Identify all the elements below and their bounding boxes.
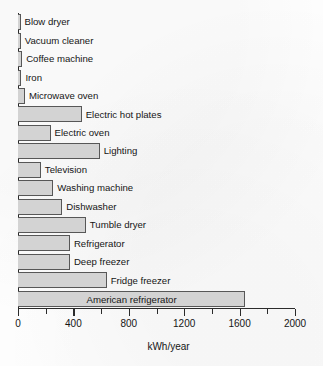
x-axis-major-tick bbox=[184, 309, 185, 316]
bar bbox=[18, 106, 82, 122]
x-axis-tick-label: 1200 bbox=[173, 319, 195, 329]
plot-area: Blow dryerVacuum cleanerCoffee machineIr… bbox=[18, 13, 295, 308]
x-axis-tick-label: 1600 bbox=[228, 319, 250, 329]
x-axis-major-tick bbox=[18, 309, 19, 316]
bar-label: American refrigerator bbox=[18, 295, 245, 305]
bar-row: Refrigerator bbox=[18, 234, 295, 252]
bar-row: Iron bbox=[18, 68, 295, 86]
bar-label: Dishwasher bbox=[62, 202, 116, 212]
bar-label: Deep freezer bbox=[70, 257, 129, 267]
x-axis-minor-tick bbox=[212, 309, 213, 314]
bar bbox=[18, 235, 70, 251]
bar-label: Television bbox=[41, 165, 87, 175]
bar-row: Dishwasher bbox=[18, 197, 295, 215]
bar bbox=[18, 272, 107, 288]
bar bbox=[18, 162, 41, 178]
x-axis-tick-label: 400 bbox=[65, 319, 82, 329]
bar-row: Fridge freezer bbox=[18, 271, 295, 289]
bar-label: Refrigerator bbox=[70, 239, 125, 249]
bar-label: Electric oven bbox=[51, 128, 110, 138]
x-axis-tick-label: 0 bbox=[15, 319, 21, 329]
bar-label: Electric hot plates bbox=[82, 110, 162, 120]
bar-row: Electric oven bbox=[18, 124, 295, 142]
x-axis-major-tick bbox=[73, 309, 74, 316]
bar-label: Blow dryer bbox=[21, 17, 70, 27]
x-axis-minor-tick bbox=[157, 309, 158, 314]
x-axis-minor-tick bbox=[46, 309, 47, 314]
bar-row: Coffee machine bbox=[18, 50, 295, 68]
bar-row: Deep freezer bbox=[18, 253, 295, 271]
x-axis-major-tick bbox=[240, 309, 241, 316]
bar-row: Washing machine bbox=[18, 179, 295, 197]
x-axis-title-text: kWh/year bbox=[133, 341, 189, 352]
bar-label: Washing machine bbox=[53, 183, 133, 193]
bar-row: Lighting bbox=[18, 142, 295, 160]
bar-label: Lighting bbox=[100, 146, 138, 156]
bar bbox=[18, 143, 100, 159]
bar bbox=[18, 88, 25, 104]
bar-label: Tumble dryer bbox=[86, 220, 146, 230]
bar bbox=[18, 254, 70, 270]
bar-label: Iron bbox=[21, 73, 42, 83]
bar bbox=[18, 125, 51, 141]
bar-label: Vacuum cleaner bbox=[21, 36, 94, 46]
bar-label: Fridge freezer bbox=[107, 276, 171, 286]
bar-row: Vacuum cleaner bbox=[18, 31, 295, 49]
bar bbox=[18, 199, 62, 215]
bar-label: Coffee machine bbox=[22, 54, 93, 64]
bar bbox=[18, 180, 53, 196]
x-axis-title: kWh/year bbox=[0, 341, 323, 352]
bar-row: Tumble dryer bbox=[18, 216, 295, 234]
x-axis-minor-tick bbox=[101, 309, 102, 314]
bar-row: Microwave oven bbox=[18, 87, 295, 105]
x-axis-major-tick bbox=[295, 309, 296, 316]
bar-label: Microwave oven bbox=[25, 91, 98, 101]
bar bbox=[18, 217, 86, 233]
bar-chart: Blow dryerVacuum cleanerCoffee machineIr… bbox=[0, 0, 323, 366]
x-axis-minor-tick bbox=[267, 309, 268, 314]
bar-row: Electric hot plates bbox=[18, 105, 295, 123]
x-axis-tick-label: 2000 bbox=[284, 319, 306, 329]
bar-row: Television bbox=[18, 161, 295, 179]
x-axis-major-tick bbox=[129, 309, 130, 316]
bar-row: Blow dryer bbox=[18, 13, 295, 31]
bar-row: American refrigerator bbox=[18, 290, 295, 308]
x-axis-tick-label: 800 bbox=[120, 319, 137, 329]
